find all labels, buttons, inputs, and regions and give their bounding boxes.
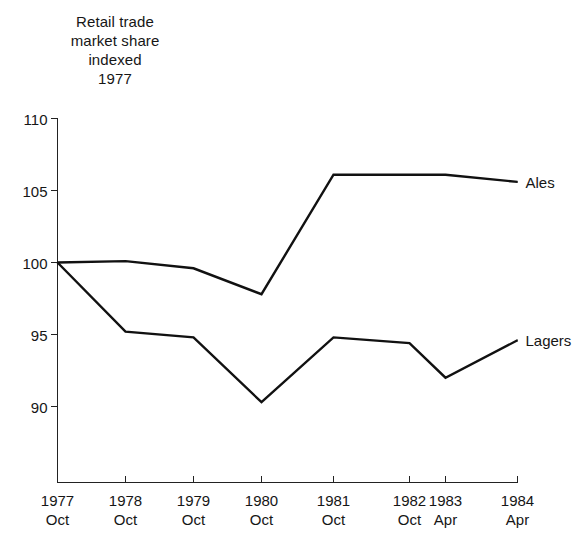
x-axis-tick-year: 1983 <box>411 491 481 510</box>
x-axis-tick-month: Oct <box>159 510 229 529</box>
y-axis-tick-label: 90 <box>4 400 48 415</box>
x-axis-tick-year: 1978 <box>91 491 161 510</box>
series-label-ales: Ales <box>526 175 555 190</box>
x-axis-tick-label: 1984Apr <box>483 491 553 529</box>
x-axis-tick-month: Apr <box>411 510 481 529</box>
y-axis-tick-label: 100 <box>4 256 48 271</box>
x-axis-tick-year: 1977 <box>23 491 93 510</box>
x-axis-tick-label: 1979Oct <box>159 491 229 529</box>
x-axis-tick-label: 1980Oct <box>227 491 297 529</box>
x-axis-tick-label: 1978Oct <box>91 491 161 529</box>
x-axis-tick-label: 1981Oct <box>299 491 369 529</box>
x-axis-tick-year: 1981 <box>299 491 369 510</box>
x-axis-tick-month: Oct <box>91 510 161 529</box>
y-axis-tick-label: 105 <box>4 184 48 199</box>
x-axis-tick-label: 1983Apr <box>411 491 481 529</box>
x-axis-tick-month: Oct <box>227 510 297 529</box>
x-axis-tick-year: 1984 <box>483 491 553 510</box>
x-axis-tick-label: 1977Oct <box>23 491 93 529</box>
y-axis-tick-label: 95 <box>4 328 48 343</box>
plot-area <box>0 0 581 550</box>
series-group <box>58 175 518 403</box>
series-line-lagers <box>58 263 518 403</box>
y-axis-ticks <box>51 191 58 407</box>
series-label-lagers: Lagers <box>526 333 572 348</box>
y-axis-tick-label: 110 <box>4 112 48 127</box>
x-axis-tick-month: Oct <box>299 510 369 529</box>
x-axis-tick-year: 1980 <box>227 491 297 510</box>
x-axis-ticks <box>58 476 518 483</box>
axes <box>51 119 518 483</box>
chart-figure: Retail trade market share indexed 1977 1… <box>0 0 581 550</box>
x-axis-tick-year: 1979 <box>159 491 229 510</box>
x-axis-tick-month: Apr <box>483 510 553 529</box>
series-line-ales <box>58 175 518 295</box>
x-axis-tick-month: Oct <box>23 510 93 529</box>
axis-lines <box>51 119 518 483</box>
